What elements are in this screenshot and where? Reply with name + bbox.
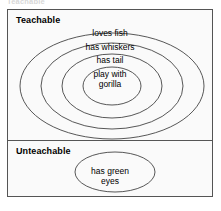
section-unteachable: Unteachable has green eyes xyxy=(8,141,212,196)
ring-label-loves-fish: loves fish xyxy=(8,28,212,38)
section-title-teachable: Teachable xyxy=(16,15,60,25)
section-teachable: Teachable loves fish has whiskers has ta… xyxy=(8,10,212,141)
ring-label-has-green-eyes: has green eyes xyxy=(8,166,212,186)
diagram-frame: Teachable loves fish has whiskers has ta… xyxy=(7,9,213,197)
clipped-caption: Teachable xyxy=(7,0,45,5)
section-title-unteachable: Unteachable xyxy=(16,146,71,156)
ring-label-has-whiskers: has whiskers xyxy=(8,42,212,52)
ring-label-has-tail: has tail xyxy=(8,55,212,65)
ring-label-play-with-gorilla: play with gorilla xyxy=(8,69,212,89)
